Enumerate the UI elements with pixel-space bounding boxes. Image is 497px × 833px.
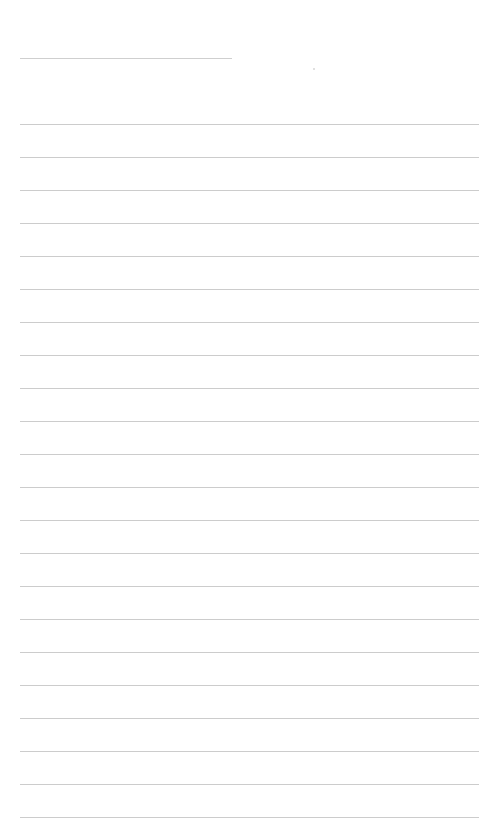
ruled-line bbox=[20, 751, 479, 752]
ruled-line bbox=[20, 718, 479, 719]
ruled-line bbox=[20, 421, 479, 422]
header-title-line bbox=[20, 58, 232, 59]
ruled-line bbox=[20, 784, 479, 785]
lined-paper-sheet bbox=[0, 0, 497, 833]
ruled-line bbox=[20, 586, 479, 587]
ruled-line bbox=[20, 652, 479, 653]
ruled-line bbox=[20, 685, 479, 686]
ruled-line bbox=[20, 487, 479, 488]
ruled-line bbox=[20, 817, 479, 818]
ruled-line bbox=[20, 454, 479, 455]
ruled-line bbox=[20, 190, 479, 191]
paper-speck-mark bbox=[313, 68, 315, 70]
ruled-line bbox=[20, 124, 479, 125]
ruled-line bbox=[20, 388, 479, 389]
ruled-line bbox=[20, 553, 479, 554]
ruled-line bbox=[20, 223, 479, 224]
ruled-line bbox=[20, 322, 479, 323]
ruled-line bbox=[20, 355, 479, 356]
ruled-line bbox=[20, 520, 479, 521]
ruled-line bbox=[20, 289, 479, 290]
ruled-line bbox=[20, 256, 479, 257]
ruled-line bbox=[20, 619, 479, 620]
ruled-line bbox=[20, 157, 479, 158]
